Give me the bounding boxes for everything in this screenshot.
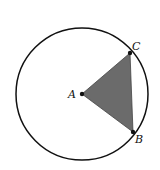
point-a-dot — [80, 92, 84, 96]
circle-diagram: A B C — [0, 0, 160, 170]
label-c: C — [132, 40, 141, 53]
label-b: B — [134, 133, 143, 146]
shaded-triangle-abc — [82, 53, 133, 132]
label-a: A — [67, 88, 76, 101]
